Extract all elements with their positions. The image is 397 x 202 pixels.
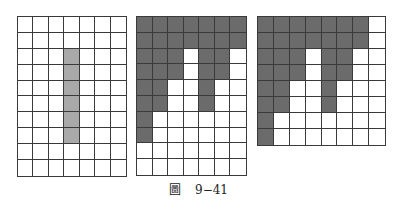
grid-cell	[33, 128, 48, 144]
grid-cell	[337, 97, 353, 113]
grid-cell	[199, 159, 215, 175]
grid-cell-shaded	[64, 128, 79, 144]
grid-cell-shaded	[258, 33, 274, 49]
grid-cell	[49, 65, 64, 81]
grid-cell	[64, 33, 79, 49]
grid-cell	[111, 17, 126, 33]
grid-cell	[230, 64, 246, 80]
grid-cell	[184, 112, 200, 128]
grid-cell-shaded	[184, 17, 200, 33]
grid-cell	[184, 96, 200, 112]
grid-cell	[95, 81, 110, 97]
grid-cell	[80, 144, 95, 160]
grid-cell	[33, 17, 48, 33]
grid-cell-shaded	[337, 65, 353, 81]
grid-cell	[33, 112, 48, 128]
grid-cell	[184, 64, 200, 80]
grid-cell-shaded	[153, 17, 169, 33]
grid-cell	[33, 144, 48, 160]
grid-cell	[80, 49, 95, 65]
grid-cell	[33, 33, 48, 49]
grid-cell-shaded	[230, 17, 246, 33]
grid-cell	[18, 128, 33, 144]
grid-cell	[230, 143, 246, 159]
grid-cell-shaded	[168, 49, 184, 65]
grid-cell	[80, 160, 95, 176]
grid-cell-shaded	[64, 112, 79, 128]
grid-cell	[49, 49, 64, 65]
grid-1	[17, 16, 127, 177]
grid-cell	[184, 49, 200, 65]
grid-cell	[290, 113, 306, 129]
grid-cell	[353, 65, 369, 81]
grid-cell	[49, 160, 64, 176]
grid-cell	[80, 65, 95, 81]
grid-cell	[80, 33, 95, 49]
grid-cell-shaded	[64, 49, 79, 65]
grid-cell	[290, 97, 306, 113]
grid-cell	[322, 129, 338, 145]
grid-cell-shaded	[337, 33, 353, 49]
grid-cell-shaded	[353, 17, 369, 33]
grid-cell-shaded	[258, 97, 274, 113]
grid-cell	[369, 113, 385, 129]
grid-cell	[95, 96, 110, 112]
grid-cell-shaded	[137, 80, 153, 96]
grid-cell-shaded	[215, 64, 231, 80]
grid-cell	[33, 65, 48, 81]
grid-cell	[215, 143, 231, 159]
grid-cell	[18, 160, 33, 176]
grid-cell-shaded	[274, 65, 290, 81]
grid-cell-shaded	[258, 17, 274, 33]
grid-cell	[95, 160, 110, 176]
grid-cell	[369, 81, 385, 97]
grid-cell-shaded	[199, 80, 215, 96]
grid-cell-shaded	[258, 129, 274, 145]
grid-cell-shaded	[258, 113, 274, 129]
grid-cell-shaded	[137, 96, 153, 112]
grid-cell	[230, 159, 246, 175]
grid-cell-shaded	[215, 49, 231, 65]
grid-cell-shaded	[337, 49, 353, 65]
grid-cell-shaded	[322, 33, 338, 49]
grid-cell	[153, 143, 169, 159]
grid-cell	[168, 128, 184, 144]
grid-cell	[369, 17, 385, 33]
grid-cell	[369, 33, 385, 49]
grid-cell	[111, 81, 126, 97]
grid-cell	[49, 144, 64, 160]
grid-cell	[95, 65, 110, 81]
grid-cell-shaded	[337, 17, 353, 33]
grid-cell	[168, 112, 184, 128]
grid-cell-shaded	[258, 49, 274, 65]
grid-cell-shaded	[168, 17, 184, 33]
grid-cell	[215, 128, 231, 144]
grid-cell	[95, 17, 110, 33]
grid-cell	[306, 97, 322, 113]
grid-cell	[111, 128, 126, 144]
grid-cell-shaded	[274, 49, 290, 65]
grid-cell	[18, 96, 33, 112]
grid-cell	[337, 129, 353, 145]
grid-cell-shaded	[199, 33, 215, 49]
grid-cell	[168, 159, 184, 175]
grid-cell	[80, 112, 95, 128]
grid-cell	[49, 33, 64, 49]
grid-cell	[18, 65, 33, 81]
grid-cell	[230, 80, 246, 96]
grid-cell	[230, 128, 246, 144]
grid-cell-shaded	[64, 65, 79, 81]
grid-cell-shaded	[64, 81, 79, 97]
grid-cell-shaded	[322, 49, 338, 65]
grid-cell	[80, 81, 95, 97]
grid-cell	[111, 33, 126, 49]
grid-cell	[168, 143, 184, 159]
grid-cell-shaded	[137, 17, 153, 33]
grid-cell	[290, 129, 306, 145]
grid-cell	[153, 159, 169, 175]
grid-cell-shaded	[199, 49, 215, 65]
grid-cell-shaded	[137, 128, 153, 144]
grid-cell-shaded	[306, 33, 322, 49]
grid-cell-shaded	[153, 80, 169, 96]
grid-cell	[137, 159, 153, 175]
